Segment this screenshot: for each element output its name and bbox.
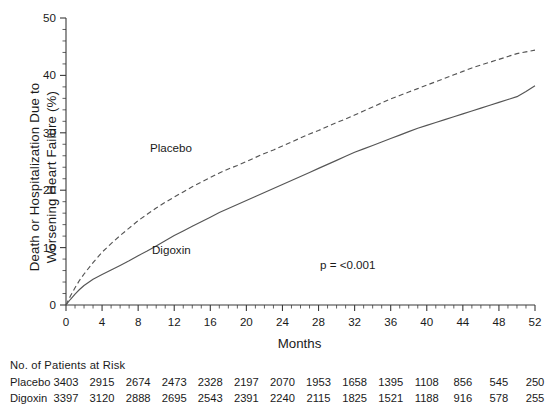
risk-cell: 2115 [302,392,336,404]
risk-cell: 1658 [338,376,372,388]
x-tick-label: 36 [371,315,411,328]
x-tick-label: 0 [46,315,86,328]
x-axis-ticks [66,305,535,311]
x-tick-label: 24 [262,315,302,328]
risk-cell: 2888 [121,392,155,404]
risk-cell: 916 [446,392,480,404]
kaplan-meier-figure: Death or Hospitalization Due to Worsenin… [0,0,555,413]
risk-cell: 578 [482,392,516,404]
risk-cell: 2240 [265,392,299,404]
risk-cell: 2197 [229,376,263,388]
risk-cell: 856 [446,376,480,388]
y-tick-label: 10 [32,241,56,254]
risk-table-title: No. of Patients at Risk [10,359,125,371]
y-tick-label: 50 [32,11,56,24]
x-tick-label: 12 [154,315,194,328]
risk-cell: 2070 [265,376,299,388]
risk-cell: 545 [482,376,516,388]
y-tick-label: 30 [32,126,56,139]
x-tick-label: 48 [479,315,519,328]
risk-cell: 250 [518,376,552,388]
x-tick-label: 44 [443,315,483,328]
x-tick-label: 32 [335,315,375,328]
series-line-digoxin [66,86,535,305]
y-tick-label: 40 [32,68,56,81]
x-tick-label: 28 [299,315,339,328]
risk-cell: 3120 [85,392,119,404]
risk-cell: 1395 [374,376,408,388]
x-tick-label: 52 [515,315,555,328]
risk-cell: 2695 [157,392,191,404]
risk-cell: 3397 [49,392,83,404]
axes [66,18,535,305]
x-tick-label: 40 [407,315,447,328]
risk-cell: 1825 [338,392,372,404]
x-axis-title-text: Months [278,336,322,351]
x-tick-label: 4 [82,315,122,328]
risk-cell: 1108 [410,376,444,388]
risk-cell: 1521 [374,392,408,404]
data-series [66,50,535,305]
y-tick-label: 0 [32,298,56,311]
risk-row-label-placebo: Placebo [10,376,50,388]
risk-cell: 2473 [157,376,191,388]
risk-cell: 2674 [121,376,155,388]
risk-cell: 2543 [193,392,227,404]
p-value-annotation: p = <0.001 [320,258,375,271]
digoxin-curve-label: Digoxin [152,243,191,256]
risk-cell: 1188 [410,392,444,404]
x-tick-label: 16 [190,315,230,328]
risk-cell: 2915 [85,376,119,388]
plot-area [0,0,555,340]
placebo-curve-label: Placebo [150,141,192,154]
risk-cell: 255 [518,392,552,404]
risk-row-label-digoxin: Digoxin [10,392,47,404]
risk-cell: 2391 [229,392,263,404]
risk-cell: 3403 [49,376,83,388]
risk-cell: 1953 [302,376,336,388]
x-tick-label: 8 [118,315,158,328]
x-tick-label: 20 [226,315,266,328]
risk-cell: 2328 [193,376,227,388]
y-axis-ticks [60,18,66,305]
x-axis-title: Months [0,336,555,351]
series-line-placebo [66,50,535,305]
y-tick-label: 20 [32,183,56,196]
